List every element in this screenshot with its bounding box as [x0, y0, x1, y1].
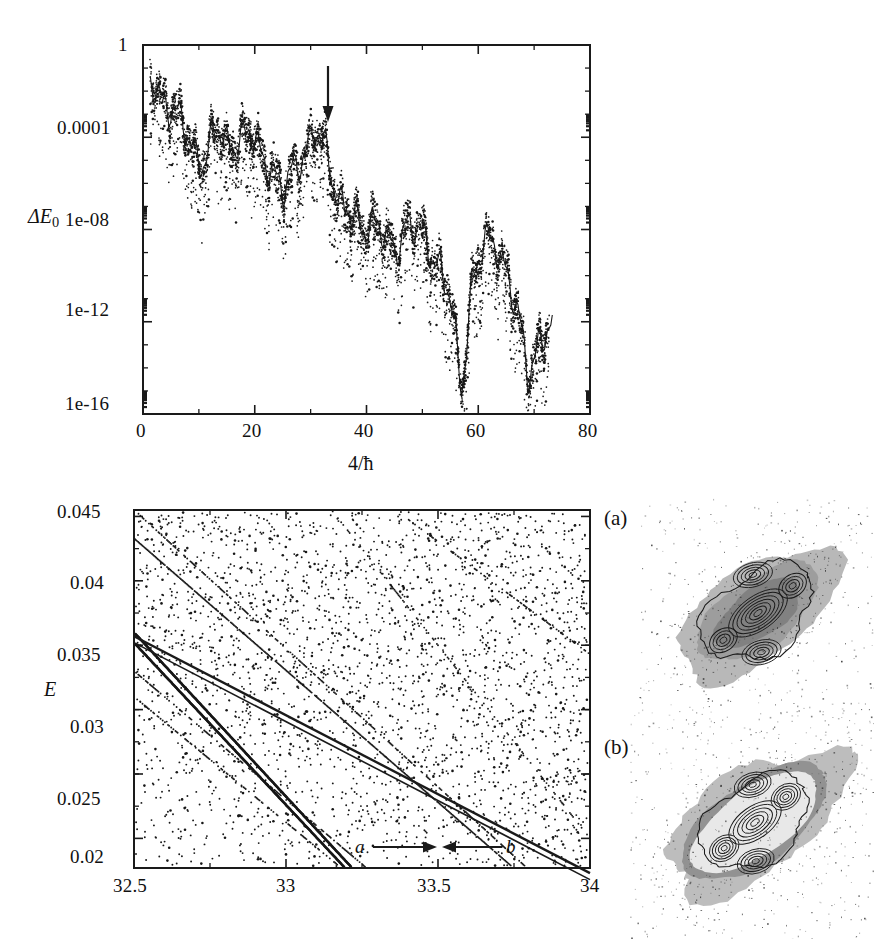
- top-panel-axis-ticks: [143, 45, 590, 414]
- husimi-panel-b: [630, 700, 874, 939]
- top-panel-plot-area: [0, 0, 874, 480]
- bottom-panel-plot-area: [0, 490, 610, 939]
- bottom-panel-data-points: [135, 511, 588, 867]
- top-panel: ΔE0 1 0.0001 1e-08 1e-12 1e-16 0 20 40 6…: [0, 0, 874, 480]
- husimi-panel-a: [638, 498, 874, 728]
- bottom-panel-frame: [134, 510, 590, 868]
- top-panel-frame: [143, 45, 590, 414]
- bottom-panel-arrow-b-label: b: [506, 836, 516, 858]
- figure-root: ΔE0 1 0.0001 1e-08 1e-12 1e-16 0 20 40 6…: [0, 0, 874, 939]
- panel-label-a: (a): [604, 506, 627, 531]
- bottom-panel-axis-ticks: [134, 510, 590, 868]
- bottom-left-panel: E 0.045 0.04 0.035 0.03 0.025 0.02 32.5 …: [0, 490, 610, 939]
- top-panel-down-arrow-annotation: [323, 66, 334, 122]
- panel-label-b: (b): [604, 735, 629, 760]
- bottom-panel-arrow-a-label: a: [355, 836, 365, 858]
